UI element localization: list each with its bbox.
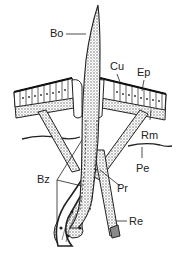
label-re: Re [129,216,143,227]
pe-membrane-line [128,144,172,147]
basal-membrane-line [22,136,80,139]
label-cu: Cu [110,61,124,72]
label-bo: Bo [50,28,63,39]
label-bz: Bz [37,174,50,185]
muscle-left [38,110,80,172]
label-pe: Pe [136,163,149,174]
label-ep: Ep [137,67,150,78]
socket-cell-left [72,80,82,118]
leader-cu [117,74,120,82]
label-rm: Rm [141,130,158,141]
nerve-process [94,150,118,236]
leader-bz-2 [57,180,82,186]
label-pr: Pr [117,183,128,194]
